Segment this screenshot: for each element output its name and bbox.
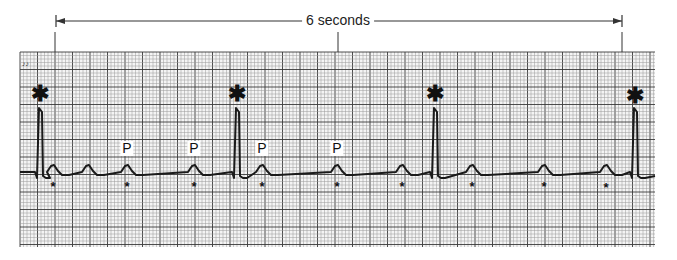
p-wave-asterisk-marker: *: [541, 180, 546, 193]
corner-mark: ♪♪: [22, 60, 29, 67]
p-wave-asterisk-marker: *: [334, 180, 339, 193]
qrs-asterisk-marker: ✱: [626, 85, 644, 107]
qrs-asterisk-marker: ✱: [31, 83, 49, 105]
p-wave-asterisk-marker: *: [50, 180, 55, 193]
ecg-rhythm-strip: ♪♪ 6 seconds ✱✱✱✱PPPP*********: [0, 0, 677, 260]
p-wave-label: P: [255, 141, 268, 156]
p-wave-label: P: [187, 141, 200, 156]
qrs-asterisk-marker: ✱: [228, 83, 246, 105]
duration-label: 6 seconds: [302, 12, 374, 28]
p-wave-asterisk-marker: *: [603, 181, 608, 194]
ecg-strip-canvas: [0, 0, 677, 260]
p-wave-asterisk-marker: *: [259, 180, 264, 193]
p-wave-asterisk-marker: *: [191, 180, 196, 193]
p-wave-label: P: [120, 141, 133, 156]
qrs-asterisk-marker: ✱: [426, 83, 444, 105]
p-wave-label: P: [330, 141, 343, 156]
p-wave-asterisk-marker: *: [399, 180, 404, 193]
p-wave-asterisk-marker: *: [469, 180, 474, 193]
p-wave-asterisk-marker: *: [124, 180, 129, 193]
